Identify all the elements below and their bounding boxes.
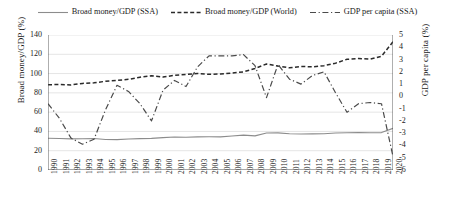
y-tick-label-left-3: 60 — [20, 108, 42, 116]
legend-label-2: GDP per capita (SSA) — [344, 8, 418, 16]
y-tick-label-right-2: -4 — [399, 141, 421, 149]
series-line-2 — [48, 55, 393, 157]
legend-label-1: Broad money/GDP (World) — [205, 8, 297, 16]
series-line-1 — [48, 42, 393, 85]
legend-item-broad-money-ssa: Broad money/GDP (SSA) — [38, 8, 158, 17]
x-tick-label-2020: 2020 — [396, 159, 404, 174]
y-tick-label-right-11: 5 — [399, 31, 421, 39]
y-tick-label-right-4: -2 — [399, 117, 421, 125]
line-dashdot-icon — [310, 8, 340, 17]
y-tick-label-right-3: -3 — [399, 129, 421, 137]
y-tick-label-right-9: 3 — [399, 56, 421, 64]
plot-area — [48, 35, 393, 170]
y-tick-label-left-5: 100 — [20, 70, 42, 78]
chart-legend: Broad money/GDP (SSA) Broad money/GDP (W… — [0, 2, 455, 22]
y-tick-label-right-10: 4 — [399, 43, 421, 51]
y-axis-right-title: GDP per capita (%) — [420, 0, 430, 130]
y-tick-label-left-1: 20 — [20, 147, 42, 155]
legend-label-0: Broad money/GDP (SSA) — [72, 8, 158, 16]
line-solid-icon — [38, 8, 68, 17]
y-tick-label-left-6: 120 — [20, 50, 42, 58]
series-line-0 — [48, 128, 393, 139]
y-tick-label-right-7: 1 — [399, 80, 421, 88]
legend-item-gdp-per-capita-ssa: GDP per capita (SSA) — [310, 8, 418, 17]
y-tick-label-left-0: 0 — [20, 166, 42, 174]
y-tick-label-left-7: 140 — [20, 31, 42, 39]
legend-item-broad-money-world: Broad money/GDP (World) — [171, 8, 297, 17]
plot-svg — [48, 35, 393, 170]
data-series-layer — [48, 42, 393, 157]
y-tick-label-left-2: 40 — [20, 127, 42, 135]
chart-figure: Broad money/GDP (SSA) Broad money/GDP (W… — [0, 0, 455, 206]
line-dashed-icon — [171, 8, 201, 17]
y-tick-label-left-4: 80 — [20, 89, 42, 97]
y-tick-label-right-6: 0 — [399, 92, 421, 100]
y-tick-label-right-8: 2 — [399, 68, 421, 76]
y-tick-label-right-5: -1 — [399, 105, 421, 113]
